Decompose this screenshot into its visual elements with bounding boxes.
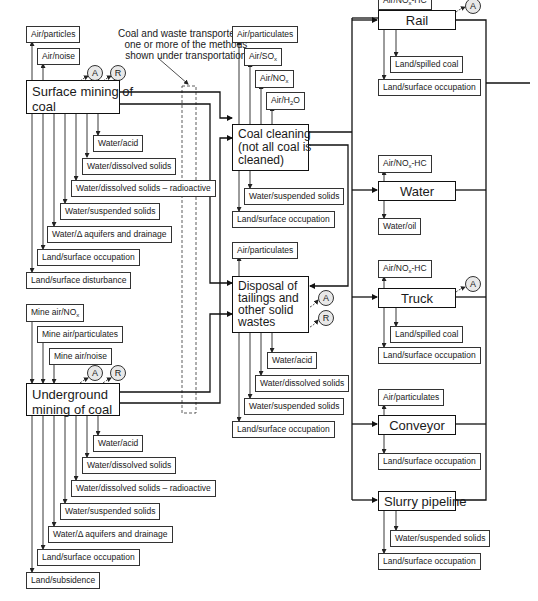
symbol-r-icon: R [110,365,126,381]
impact-water-dissolved-radioactive: Water/dissolved solids – radioactive [71,180,216,197]
impact-water-acid: Water/acid [93,435,143,452]
impact-water-suspended-solids: Water/suspended solids [60,203,160,220]
transport-truck: Truck [378,288,456,308]
impact-water-dissolved-solids: Water/dissolved solids [82,158,176,175]
impact-water-suspended-solids: Water/suspended solids [390,530,490,547]
hc-suffix: -HC [412,158,427,168]
symbol-a-icon: A [318,290,334,306]
impact-air-nox-hc: Air/NOx-HC [378,155,432,173]
impact-land-spilled-coal: Land/spilled coal [390,326,463,343]
impact-water-suspended-solids: Water/suspended solids [244,398,344,415]
air-h2o-text: Air/H [271,95,290,105]
impact-air-particulates: Air/particulates [378,389,444,406]
air-nox-text: Air/NO [383,0,409,5]
impact-water-dissolved-solids: Water/dissolved solids [82,457,176,474]
impact-land-surface-occupation: Land/surface occupation [37,249,140,266]
air-nox-text: Air/NO [383,263,409,273]
impact-land-surface-occupation: Land/surface occupation [378,79,481,96]
transport-conveyor: Conveyor [378,415,456,435]
disposal-process: Disposal of tailings and other solid was… [232,276,309,333]
impact-water-dissolved-solids: Water/dissolved solids [255,375,349,392]
coal-cleaning-title-3: cleaned) [238,154,303,167]
underground-mining-process: Underground mining of coal [26,383,120,416]
surface-mining-title-2: coal [32,99,114,114]
impact-air-particulates: Air/particulates [232,26,298,43]
coal-cleaning-process: Coal cleaning (not all coal is cleaned) [232,124,309,171]
surface-mining-process: Surface mining of coal [26,80,120,114]
air-h2o-suffix: O [293,95,300,105]
impact-mine-air-particulates: Mine air/particulates [37,326,123,343]
mine-air-nox-text: Mine air/NO [31,307,76,317]
impact-land-surface-occupation: Land/surface occupation [37,549,140,566]
impact-air-noise: Air/noise [37,48,80,65]
symbol-a-icon: A [87,365,103,381]
impact-land-spilled-coal: Land/spilled coal [390,56,463,73]
transport-water: Water [378,181,456,201]
impact-air-particulates: Air/particulates [232,242,298,259]
impact-air-particles: Air/particles [26,26,80,43]
impact-land-subsidence: Land/subsidence [26,572,100,589]
symbol-a-icon: A [87,65,103,81]
impact-land-surface-occupation: Land/surface occupation [378,347,481,364]
impact-land-surface-occupation: Land/surface occupation [232,211,335,228]
impact-air-nox-hc: Air/NOx-HC [378,0,432,10]
impact-water-acid: Water/acid [267,352,317,369]
note-line-3: shown under transportation [118,50,254,61]
subscript: x [286,78,289,84]
impact-mine-air-noise: Mine air/noise [49,348,112,365]
impact-water-suspended-solids: Water/suspended solids [244,188,344,205]
air-nox-text: Air/NO [260,73,286,83]
impact-air-nox-hc: Air/NOx-HC [378,260,432,278]
underground-title-1: Underground [32,387,114,402]
hc-suffix: -HC [412,263,427,273]
disposal-title-4: wastes [238,316,303,328]
air-nox-text: Air/NO [383,158,409,168]
impact-land-surface-occupation: Land/surface occupation [378,553,481,570]
impact-land-surface-occupation: Land/surface occupation [232,421,335,438]
transport-slurry-pipeline: Slurry pipeline [378,491,456,511]
impact-water-aquifers: Water/Δ aquifers and drainage [47,226,172,243]
impact-water-suspended-solids: Water/suspended solids [60,503,160,520]
underground-title-2: mining of coal [32,402,114,417]
impact-air-nox: Air/NOx [255,70,294,88]
hc-suffix: -HC [412,0,427,5]
impact-water-aquifers: Water/Δ aquifers and drainage [48,526,173,543]
impact-water-oil: Water/oil [378,218,421,235]
impact-water-dissolved-radioactive: Water/dissolved solids – radioactive [71,480,216,497]
impact-land-surface-occupation: Land/surface occupation [378,453,481,470]
symbol-a-icon: A [465,276,481,292]
impact-land-surface-disturbance: Land/surface disturbance [26,272,131,289]
impact-mine-air-nox: Mine air/NOx [26,304,84,322]
impact-water-acid: Water/acid [93,135,143,152]
subscript: x [76,312,79,318]
air-sox-text: Air/SO [249,51,274,61]
surface-mining-title-1: Surface mining of [32,84,114,99]
impact-air-sox: Air/SOx [244,48,282,66]
symbol-r-icon: R [110,65,126,81]
transport-rail: Rail [378,10,456,30]
subscript: x [274,56,277,62]
symbol-r-icon: R [318,310,334,326]
impact-air-h2o: Air/H2O [266,92,305,110]
